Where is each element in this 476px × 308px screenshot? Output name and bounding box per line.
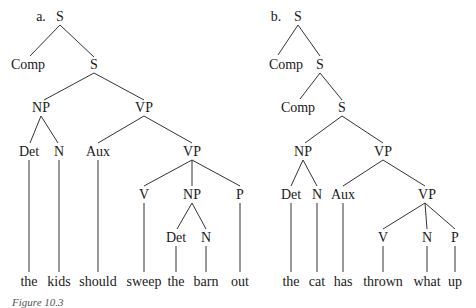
word: barn [194, 275, 219, 289]
node-det2: Det [166, 231, 186, 245]
node-s-root: S [56, 10, 64, 24]
node-vp2: VP [183, 145, 201, 159]
node-det: Det [19, 145, 39, 159]
node-s-inner: S [338, 101, 346, 115]
word: has [334, 275, 353, 289]
word: out [231, 275, 249, 289]
word: sweep [127, 275, 162, 289]
node-n2: N [201, 231, 211, 245]
figure-caption: Figure 10.3 [12, 296, 64, 308]
node-np: NP [32, 101, 50, 115]
node-n: N [312, 188, 322, 202]
tree-b-tag: b. [271, 10, 282, 24]
word: the [20, 275, 37, 289]
node-vp: VP [135, 101, 153, 115]
tree-a-tag: a. [36, 10, 46, 24]
node-comp: Comp [11, 58, 45, 72]
node-s-mid: S [316, 58, 324, 72]
word: the [167, 275, 184, 289]
node-comp: Comp [269, 58, 303, 72]
node-aux: Aux [331, 188, 355, 202]
node-s-root: S [294, 10, 302, 24]
node-v: V [378, 231, 388, 245]
word: cat [309, 275, 325, 289]
node-n: N [54, 145, 64, 159]
word: should [79, 275, 116, 289]
node-s-inner: S [90, 58, 98, 72]
word: up [448, 275, 462, 289]
node-det: Det [281, 188, 301, 202]
node-p: P [236, 188, 244, 202]
word: the [282, 275, 299, 289]
node-aux: Aux [86, 145, 110, 159]
node-p: P [451, 231, 459, 245]
node-n2: N [422, 231, 432, 245]
node-v: V [139, 188, 149, 202]
node-np2: NP [183, 188, 201, 202]
word: thrown [363, 275, 403, 289]
node-comp2: Comp [281, 101, 315, 115]
word: what [413, 275, 440, 289]
word: kids [47, 275, 70, 289]
node-np: NP [294, 145, 312, 159]
node-vp2: VP [418, 188, 436, 202]
node-vp: VP [374, 145, 392, 159]
